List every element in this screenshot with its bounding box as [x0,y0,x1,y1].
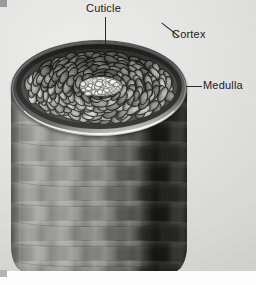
label-cuticle: Cuticle [86,2,121,14]
label-medulla: Medulla [203,79,243,91]
medulla-cell [95,81,103,87]
corner-mark-bottom-left [0,270,7,277]
bottom-white-band [0,271,256,285]
medulla-leader-line [186,86,202,87]
medulla-cell [84,91,92,96]
medulla-core [79,76,123,97]
cuticle-leader-line [105,17,106,44]
medulla-cell [113,82,121,88]
hair-structure-figure: Cuticle Cortex Medulla [0,0,256,285]
label-cortex: Cortex [172,28,206,40]
hair-shaft-illustration [11,40,187,272]
hair-cross-section [11,40,187,136]
corner-mark-top-left [0,0,7,7]
